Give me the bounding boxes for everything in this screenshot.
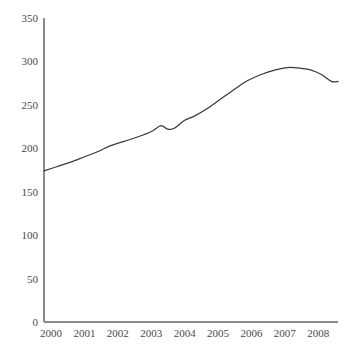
line-chart: 050100150200250300350 200020012002200320… <box>0 0 348 350</box>
x-tick-label: 2005 <box>207 327 230 339</box>
x-tick-label: 2002 <box>107 327 129 339</box>
y-tick-label-group: 050100150200250300350 <box>22 12 39 328</box>
x-tick-label: 2003 <box>140 327 163 339</box>
x-tick-label: 2008 <box>307 327 330 339</box>
y-tick-label: 250 <box>22 99 39 111</box>
x-tick-label: 2007 <box>274 327 297 339</box>
y-tick-label: 300 <box>22 55 39 67</box>
x-tick-label: 2000 <box>40 327 63 339</box>
y-tick-label: 100 <box>22 229 39 241</box>
y-tick-label: 0 <box>33 316 39 328</box>
y-tick-label: 50 <box>27 273 39 285</box>
chart-canvas: 050100150200250300350 200020012002200320… <box>0 0 348 350</box>
axes-group <box>44 18 338 322</box>
data-series-group <box>44 67 338 170</box>
y-tick-label: 150 <box>22 186 39 198</box>
x-tick-label-group: 200020012002200320042005200620072008 <box>40 327 330 339</box>
y-tick-label: 200 <box>22 142 39 154</box>
series-line <box>44 67 338 170</box>
x-tick-label: 2004 <box>174 327 197 339</box>
x-tick-label: 2001 <box>73 327 95 339</box>
y-tick-label: 350 <box>22 12 39 24</box>
x-tick-label: 2006 <box>240 327 263 339</box>
